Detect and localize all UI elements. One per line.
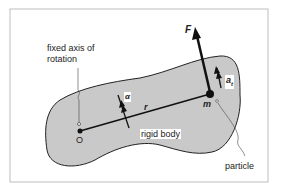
mass-label: m	[203, 99, 211, 109]
origin-label: O	[76, 135, 83, 145]
axis-label-line2: rotation	[47, 54, 77, 64]
diagram-graphic	[0, 0, 285, 187]
tangential-accel-subscript: t	[231, 81, 233, 87]
radius-label: r	[144, 102, 148, 112]
axis-label-line1: fixed axis of	[47, 43, 95, 53]
force-label: F	[185, 25, 191, 35]
origin-point	[78, 129, 83, 134]
particle-marker	[216, 100, 219, 103]
rigid-body-label: rigid body	[140, 129, 181, 139]
alpha-label: α	[124, 92, 131, 102]
particle-label: particle	[225, 161, 254, 171]
tangential-accel-label: at	[225, 75, 234, 89]
axis-marker	[78, 123, 81, 126]
rigid-body-diagram: fixed axis of rotation O r α F m at rigi…	[0, 0, 285, 187]
